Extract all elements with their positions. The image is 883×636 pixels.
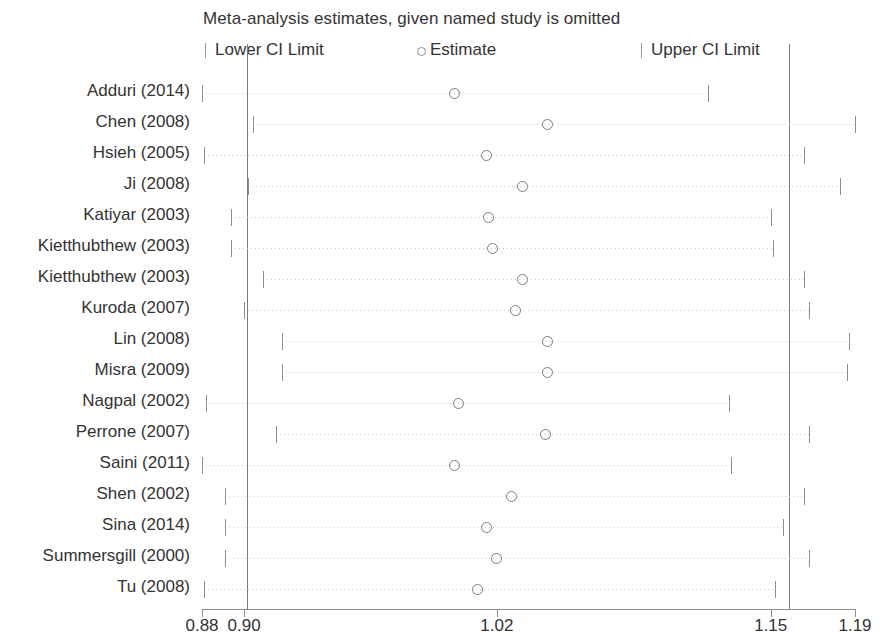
upper-ci-marker	[809, 550, 810, 567]
estimate-marker	[472, 584, 483, 595]
x-axis-tick-label: 0.88	[185, 616, 218, 636]
x-axis-tick-label: 0.90	[228, 616, 261, 636]
x-axis-tick-label: 1.02	[480, 616, 513, 636]
lower-ci-marker	[282, 364, 283, 381]
estimate-marker	[510, 305, 521, 316]
study-label: Misra (2009)	[0, 360, 190, 380]
plot-rows: Adduri (2014)Chen (2008)Hsieh (2005)Ji (…	[0, 0, 883, 636]
upper-ci-marker	[809, 426, 810, 443]
study-label: Perrone (2007)	[0, 422, 190, 442]
study-row: Saini (2011)	[0, 450, 883, 481]
confidence-interval-line	[231, 248, 772, 249]
confidence-interval-line	[282, 372, 847, 373]
estimate-marker	[487, 243, 498, 254]
upper-ci-marker	[809, 302, 810, 319]
x-axis-tick-label: 1.15	[754, 616, 787, 636]
study-label: Nagpal (2002)	[0, 391, 190, 411]
lower-ci-marker	[244, 302, 245, 319]
study-row: Kietthubthew (2003)	[0, 233, 883, 264]
estimate-marker	[540, 429, 551, 440]
x-axis-tick-label: 1.19	[838, 616, 871, 636]
confidence-interval-line	[263, 279, 804, 280]
lower-ci-marker	[282, 333, 283, 350]
upper-ci-marker	[849, 333, 850, 350]
lower-ci-marker	[231, 209, 232, 226]
study-label: Saini (2011)	[0, 453, 190, 473]
confidence-interval-line	[244, 310, 809, 311]
upper-ci-marker	[855, 116, 856, 133]
x-axis-line	[202, 609, 855, 610]
upper-ci-marker	[771, 209, 772, 226]
lower-ci-marker	[206, 395, 207, 412]
study-row: Katiyar (2003)	[0, 202, 883, 233]
lower-ci-marker	[225, 550, 226, 567]
estimate-marker	[449, 88, 460, 99]
study-row: Summersgill (2000)	[0, 543, 883, 574]
confidence-interval-line	[204, 155, 804, 156]
upper-ci-marker	[783, 519, 784, 536]
estimate-marker	[542, 119, 553, 130]
study-row: Kietthubthew (2003)	[0, 264, 883, 295]
estimate-marker	[517, 181, 528, 192]
confidence-interval-line	[248, 186, 840, 187]
confidence-interval-line	[253, 124, 855, 125]
study-label: Lin (2008)	[0, 329, 190, 349]
estimate-marker	[542, 367, 553, 378]
confidence-interval-line	[282, 341, 849, 342]
study-row: Chen (2008)	[0, 109, 883, 140]
upper-ci-marker	[804, 147, 805, 164]
study-row: Misra (2009)	[0, 357, 883, 388]
study-label: Summersgill (2000)	[0, 546, 190, 566]
estimate-marker	[517, 274, 528, 285]
upper-ci-marker	[731, 457, 732, 474]
lower-ci-marker	[202, 85, 203, 102]
lower-ci-marker	[202, 457, 203, 474]
lower-ci-marker	[225, 488, 226, 505]
lower-ci-marker	[231, 240, 232, 257]
study-label: Hsieh (2005)	[0, 143, 190, 163]
lower-ci-marker	[248, 178, 249, 195]
lower-ci-marker	[253, 116, 254, 133]
study-label: Kuroda (2007)	[0, 298, 190, 318]
upper-ci-marker	[804, 488, 805, 505]
upper-ci-marker	[775, 581, 776, 598]
upper-ci-marker	[773, 240, 774, 257]
study-row: Hsieh (2005)	[0, 140, 883, 171]
study-label: Chen (2008)	[0, 112, 190, 132]
upper-ci-marker	[804, 271, 805, 288]
study-row: Sina (2014)	[0, 512, 883, 543]
study-label: Shen (2002)	[0, 484, 190, 504]
upper-ci-marker	[840, 178, 841, 195]
upper-ci-marker	[729, 395, 730, 412]
study-label: Kietthubthew (2003)	[0, 236, 190, 256]
lower-ci-marker	[204, 147, 205, 164]
study-row: Ji (2008)	[0, 171, 883, 202]
estimate-marker	[483, 212, 494, 223]
lower-ci-marker	[225, 519, 226, 536]
influence-plot: Meta-analysis estimates, given named stu…	[0, 0, 883, 636]
study-row: Tu (2008)	[0, 574, 883, 605]
lower-ci-marker	[276, 426, 277, 443]
study-label: Ji (2008)	[0, 174, 190, 194]
confidence-interval-line	[206, 403, 728, 404]
study-label: Kietthubthew (2003)	[0, 267, 190, 287]
estimate-marker	[449, 460, 460, 471]
estimate-marker	[542, 336, 553, 347]
upper-ci-marker	[708, 85, 709, 102]
estimate-marker	[491, 553, 502, 564]
study-row: Nagpal (2002)	[0, 388, 883, 419]
lower-ci-marker	[263, 271, 264, 288]
study-row: Shen (2002)	[0, 481, 883, 512]
confidence-interval-line	[225, 558, 808, 559]
study-label: Adduri (2014)	[0, 81, 190, 101]
confidence-interval-line	[225, 527, 783, 528]
confidence-interval-line	[204, 589, 775, 590]
confidence-interval-line	[231, 217, 770, 218]
estimate-marker	[481, 522, 492, 533]
lower-ci-marker	[204, 581, 205, 598]
upper-ci-marker	[847, 364, 848, 381]
estimate-marker	[506, 491, 517, 502]
study-label: Sina (2014)	[0, 515, 190, 535]
study-label: Tu (2008)	[0, 577, 190, 597]
estimate-marker	[481, 150, 492, 161]
